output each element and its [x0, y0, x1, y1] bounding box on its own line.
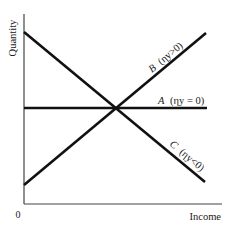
origin-label: 0 — [16, 209, 21, 220]
line-b-label: B (ηy>0) — [146, 39, 185, 75]
line-c-letter: C — [168, 138, 181, 152]
income-quantity-diagram: Quantity Income 0 A (ηy = 0) B (ηy>0) C … — [0, 0, 245, 229]
line-a-label: A (ηy = 0) — [157, 95, 205, 107]
line-a-letter: A — [157, 95, 165, 106]
x-axis-label: Income — [190, 211, 222, 222]
y-axis-label: Quantity — [7, 19, 18, 56]
line-a-condition: (ηy = 0) — [170, 95, 205, 107]
